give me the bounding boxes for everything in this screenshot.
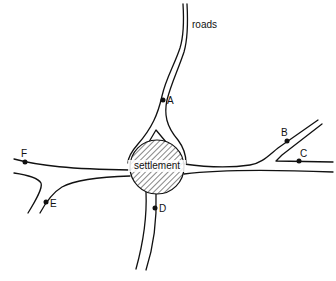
point-e-label: E — [50, 198, 57, 209]
point-b-marker — [285, 139, 290, 144]
point-c-label: C — [300, 148, 307, 159]
point-c-marker — [297, 159, 302, 164]
settlement-road-diagram: settlement roads A B C D E F — [0, 0, 336, 281]
point-a-label: A — [167, 95, 174, 106]
point-b: B — [281, 127, 290, 144]
east-road — [184, 120, 333, 174]
point-f: F — [21, 148, 28, 165]
point-d-label: D — [159, 203, 166, 214]
point-d: D — [153, 203, 167, 214]
point-e: E — [44, 198, 58, 209]
west-road — [14, 159, 130, 213]
point-a-marker — [161, 98, 166, 103]
point-d-marker — [153, 206, 158, 211]
settlement-label: settlement — [134, 160, 180, 171]
point-b-label: B — [281, 127, 288, 138]
south-road — [136, 192, 156, 270]
point-e-marker — [44, 200, 49, 205]
point-f-label: F — [21, 148, 27, 159]
north-road — [128, 4, 188, 163]
settlement-area: settlement — [128, 138, 186, 196]
point-a: A — [161, 95, 175, 106]
point-f-marker — [23, 160, 28, 165]
roads-label: roads — [192, 19, 217, 30]
